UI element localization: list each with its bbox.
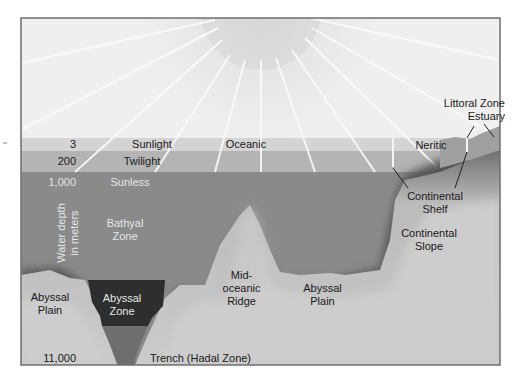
ridge-line1: Mid-	[214, 269, 269, 282]
bathyal-zone-label: Bathyal Zone	[95, 217, 155, 243]
abyssal-plain-right-line1: Abyssal	[295, 282, 350, 295]
abyssal-plain-left-label: Abyssal Plain	[24, 291, 76, 317]
slope-line2: Slope	[394, 240, 464, 253]
depth-tick-3: 3	[30, 138, 76, 151]
abyssal-plain-right-label: Abyssal Plain	[295, 282, 350, 308]
oceanic-label: Oceanic	[216, 138, 276, 151]
twilight-label: Twilight	[112, 155, 172, 168]
slope-line1: Continental	[394, 227, 464, 240]
depth-tick-11000: 11,000	[30, 352, 76, 365]
hadal-zone-label: Trench (Hadal Zone)	[148, 352, 253, 365]
bathyal-line1: Bathyal	[95, 217, 155, 230]
estuary-label: Estuary	[440, 110, 505, 123]
sunless-label: Sunless	[100, 176, 160, 189]
ocean-zones-diagram: 3 200 1,000 11,000 Water depth in meters…	[0, 0, 522, 390]
depth-axis-label: Water depth in meters	[55, 191, 83, 275]
depth-tick-200: 200	[30, 155, 76, 168]
abyssal-zone-label: Abyssal Zone	[92, 292, 152, 318]
abyssal-plain-left-line2: Plain	[24, 304, 76, 317]
ridge-line3: Ridge	[214, 295, 269, 308]
neritic-label: Neritic	[406, 139, 456, 152]
abyssal-plain-right-line2: Plain	[295, 295, 350, 308]
shelf-line2: Shelf	[400, 203, 470, 216]
abyssal-line1: Abyssal	[92, 292, 152, 305]
littoral-zone-label: Littoral Zone	[420, 97, 505, 110]
depth-axis-label-line2: in meters	[68, 191, 81, 275]
shelf-line1: Continental	[400, 190, 470, 203]
abyssal-line2: Zone	[92, 305, 152, 318]
mid-oceanic-ridge-label: Mid- oceanic Ridge	[214, 269, 269, 308]
ridge-line2: oceanic	[214, 282, 269, 295]
sunlight-label: Sunlight	[122, 138, 182, 151]
abyssal-plain-left-line1: Abyssal	[24, 291, 76, 304]
depth-axis-label-line1: Water depth	[55, 191, 68, 275]
depth-tick-1000: 1,000	[30, 176, 76, 189]
bathyal-line2: Zone	[95, 230, 155, 243]
continental-shelf-label: Continental Shelf	[400, 190, 470, 216]
continental-slope-label: Continental Slope	[394, 227, 464, 253]
